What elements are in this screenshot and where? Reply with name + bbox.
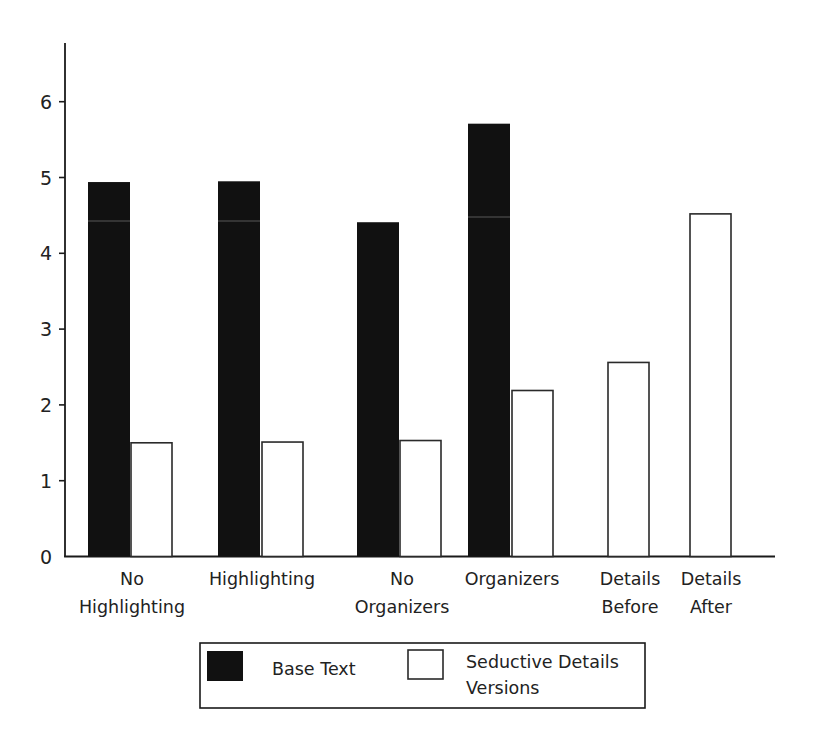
bar-seductive-details [608,362,649,556]
x-category-label: Highlighting [79,597,185,617]
y-tick-label: 0 [40,546,52,568]
bar-seductive-details [131,443,172,557]
legend-swatch-base-text [207,651,243,681]
y-tick-label: 3 [40,318,52,340]
x-category-label: Highlighting [209,569,315,589]
legend-swatch-seductive-details [408,650,443,679]
x-category-label: Details [600,569,661,589]
y-tick-label: 6 [40,91,52,113]
legend-label-seductive-details: Versions [466,678,539,698]
bar-seductive-details [512,390,553,556]
bar-base-text [357,222,399,556]
bar-seductive-details [400,441,441,557]
y-tick-label: 2 [40,394,52,416]
bar-base-text [88,182,130,556]
x-category-label: Before [601,597,658,617]
chart-bars [88,124,731,557]
x-category-label: Organizers [355,597,450,617]
x-category-label: No [390,569,414,589]
y-tick-label: 5 [40,167,52,189]
x-category-label: After [690,597,733,617]
bar-seductive-details [262,442,303,556]
x-category-label: Organizers [465,569,560,589]
y-tick-label: 1 [40,470,52,492]
y-tick-label: 4 [40,242,52,264]
x-category-label: No [120,569,144,589]
bar-seductive-details [690,214,731,557]
x-category-label: Details [681,569,742,589]
bar-base-text [468,124,510,557]
x-axis-labels: NoHighlightingHighlightingNoOrganizersOr… [79,569,741,617]
legend-label-base-text: Base Text [272,659,356,679]
bar-chart: 0123456 NoHighlightingHighlightingNoOrga… [0,0,821,746]
chart-legend: Base TextSeductive DetailsVersions [200,643,645,708]
bar-base-text [218,181,260,556]
legend-label-seductive-details: Seductive Details [466,652,619,672]
